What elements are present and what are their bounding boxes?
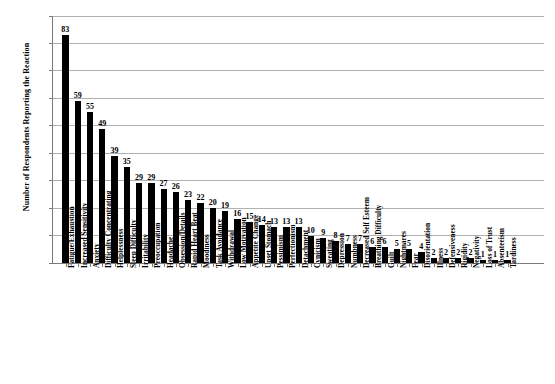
x-tick-mark bbox=[262, 263, 263, 267]
x-axis-category-label: Tardiness bbox=[510, 237, 518, 268]
y-axis-title: Number of Respondents Reporting the Reac… bbox=[22, 2, 36, 252]
x-axis-category-label: Decreased Self Esteem bbox=[363, 197, 371, 268]
bar-slot[interactable]: 9 bbox=[317, 16, 329, 263]
x-axis-category-label: Headache bbox=[167, 237, 175, 268]
x-axis-category-label: Irritability bbox=[142, 234, 150, 268]
bar-slot[interactable]: 10 bbox=[305, 16, 317, 263]
x-axis-category-label: Detachment bbox=[302, 230, 310, 268]
x-tick-mark bbox=[213, 263, 214, 267]
x-axis-category-label: Rigidity bbox=[461, 243, 469, 268]
x-axis-category-label: Obsession/Details bbox=[179, 213, 187, 268]
x-axis-category-label: Upset Stomach bbox=[265, 221, 273, 268]
x-tick-mark bbox=[127, 263, 128, 267]
x-axis-category-label: Rapid Heart Beat bbox=[191, 212, 199, 268]
x-axis-category-label: Pessimism bbox=[277, 235, 285, 268]
x-axis-category-label: Fatigue/Exhaustion bbox=[68, 206, 76, 268]
x-axis-category-label: Nightmares bbox=[400, 231, 408, 268]
bar-slot[interactable]: 7 bbox=[342, 16, 354, 263]
x-tick-mark bbox=[311, 263, 312, 267]
x-axis-category-label: Absenteeism bbox=[498, 228, 506, 268]
x-axis-category-label: Guilt bbox=[388, 252, 396, 268]
x-axis-category-label: Breathing Difficulty bbox=[375, 205, 383, 268]
bar-slot[interactable]: 5 bbox=[403, 16, 415, 263]
x-tick-mark bbox=[176, 263, 177, 267]
x-axis-category-label: Loss of Trust bbox=[486, 227, 494, 268]
x-tick-mark bbox=[385, 263, 386, 267]
x-tick-mark bbox=[483, 263, 484, 267]
bar-chart: Number of Respondents Reporting the Reac… bbox=[0, 0, 555, 384]
x-tick-mark bbox=[348, 263, 349, 267]
bar-slot[interactable]: 2 bbox=[464, 16, 476, 263]
x-axis-category-label: Sleep Difficulty bbox=[130, 219, 138, 268]
x-axis-category-label: Defensiveness bbox=[449, 224, 457, 268]
bar-slot[interactable]: 8 bbox=[329, 16, 341, 263]
x-axis-category-label: Cynicism bbox=[314, 238, 322, 268]
x-axis-category-label: Sweating bbox=[326, 239, 334, 268]
x-axis-category-label: Depression bbox=[338, 233, 346, 268]
x-tick-mark bbox=[299, 263, 300, 267]
x-tick-mark bbox=[164, 263, 165, 267]
bar-slot[interactable]: 5 bbox=[391, 16, 403, 263]
x-axis-category-label: Fear bbox=[412, 253, 420, 268]
x-axis-category-label: Preoccupation bbox=[154, 223, 162, 268]
x-axis-category-label: Anxiety bbox=[93, 243, 101, 268]
x-axis-category-label: Numbness bbox=[351, 235, 359, 268]
x-axis-category-label: Withdrawal bbox=[228, 230, 236, 268]
x-axis-category-label: Moodiness bbox=[203, 234, 211, 268]
x-axis-category-label: Disorientation bbox=[424, 223, 432, 268]
bar-slot[interactable]: 1 bbox=[501, 16, 513, 263]
bars-layer: 8359554939352929272623222019161514131313… bbox=[52, 16, 543, 263]
x-tick-mark bbox=[397, 263, 398, 267]
x-axis-category-label: Illness bbox=[437, 248, 445, 268]
x-axis-category-label: Helplessness bbox=[117, 229, 125, 268]
x-axis-category-label: Low Motivation bbox=[240, 217, 248, 268]
x-tick-mark bbox=[434, 263, 435, 267]
x-axis-category-label: Negativity bbox=[473, 236, 481, 268]
x-axis-category-label: Task Avoidance bbox=[216, 219, 224, 268]
x-axis-category-label: Appetite Change bbox=[252, 215, 260, 268]
x-axis-category-label: Difficulty Concentrating bbox=[105, 191, 113, 268]
x-tick-mark bbox=[78, 263, 79, 267]
x-axis-category-label: Perfectionism bbox=[289, 224, 297, 268]
x-axis-category-label: Increased Sensitivity bbox=[81, 203, 89, 268]
